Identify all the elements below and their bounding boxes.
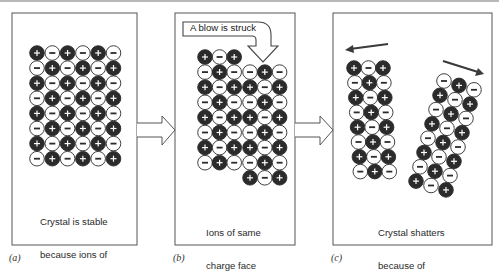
negative-ion — [272, 125, 287, 140]
negative-ion — [227, 95, 242, 110]
negative-ion — [467, 83, 482, 98]
positive-ion — [364, 105, 379, 120]
negative-ion — [60, 121, 75, 136]
negative-ion — [106, 76, 121, 91]
positive-ion — [243, 80, 258, 95]
negative-ion — [106, 46, 121, 61]
negative-ion — [60, 151, 75, 166]
negative-ion — [30, 91, 45, 106]
positive-ion — [272, 110, 287, 125]
positive-ion — [428, 164, 443, 179]
positive-ion — [362, 76, 377, 91]
positive-ion — [452, 78, 467, 93]
negative-ion — [212, 80, 227, 95]
positive-ion — [381, 150, 396, 165]
positive-ion — [227, 110, 242, 125]
positive-ion — [349, 90, 364, 105]
panel-label-b: (b) — [173, 252, 185, 263]
negative-ion — [45, 76, 60, 91]
negative-ion — [227, 155, 242, 170]
positive-ion — [227, 140, 242, 155]
negative-ion — [348, 76, 363, 91]
negative-ion — [424, 178, 439, 193]
positive-ion — [106, 91, 121, 106]
positive-ion — [366, 135, 381, 150]
negative-ion — [377, 76, 392, 91]
caption-b: Ions of same charge face each other — [206, 205, 261, 271]
positive-ion — [463, 97, 478, 112]
positive-ion — [272, 80, 287, 95]
positive-ion — [91, 46, 106, 61]
caption-line: Ions of same — [206, 227, 261, 238]
negative-ion — [258, 140, 273, 155]
positive-ion — [212, 65, 227, 80]
negative-ion — [198, 155, 213, 170]
positive-ion — [376, 61, 391, 76]
negative-ion — [272, 65, 287, 80]
positive-ion — [60, 136, 75, 151]
negative-ion — [361, 61, 376, 76]
caption-line: charge face — [206, 260, 261, 271]
panel-label-a: (a) — [9, 252, 21, 263]
transition-arrow-a-to-b — [137, 116, 175, 145]
transition-arrow-b-to-c — [295, 116, 333, 145]
caption-line: because ions of — [40, 249, 108, 260]
negative-ion — [91, 91, 106, 106]
positive-ion — [379, 120, 394, 135]
positive-ion — [368, 164, 383, 179]
negative-ion — [76, 76, 91, 91]
negative-ion — [91, 121, 106, 136]
negative-ion — [198, 65, 213, 80]
caption-line: because of — [378, 260, 445, 271]
negative-ion — [382, 164, 397, 179]
negative-ion — [365, 120, 380, 135]
positive-ion — [198, 140, 213, 155]
positive-ion — [425, 117, 440, 132]
positive-ion — [433, 88, 448, 103]
negative-ion — [429, 102, 444, 117]
negative-ion — [91, 61, 106, 76]
negative-ion — [45, 46, 60, 61]
negative-ion — [227, 65, 242, 80]
negative-ion — [421, 131, 436, 146]
negative-ion — [353, 164, 368, 179]
positive-ion — [45, 121, 60, 136]
positive-ion — [60, 106, 75, 121]
negative-ion — [459, 111, 474, 126]
negative-ion — [443, 168, 458, 183]
positive-ion — [347, 61, 362, 76]
positive-ion — [45, 61, 60, 76]
blow-label: A blow is struck — [190, 22, 256, 33]
negative-ion — [363, 90, 378, 105]
negative-ion — [60, 61, 75, 76]
negative-ion — [76, 106, 91, 121]
positive-ion — [258, 95, 273, 110]
positive-ion — [352, 150, 367, 165]
positive-ion — [30, 106, 45, 121]
positive-ion — [76, 121, 91, 136]
positive-ion — [212, 155, 227, 170]
negative-ion — [76, 136, 91, 151]
negative-ion — [243, 65, 258, 80]
negative-ion — [258, 171, 273, 186]
negative-ion — [349, 105, 364, 120]
positive-ion — [272, 171, 287, 186]
positive-ion — [60, 76, 75, 91]
negative-ion — [451, 140, 466, 155]
positive-ion — [409, 174, 424, 189]
positive-ion — [198, 50, 213, 65]
negative-ion — [258, 110, 273, 125]
positive-ion — [76, 61, 91, 76]
positive-ion — [106, 121, 121, 136]
caption-a: Crystal is stable because ions of opposi… — [40, 194, 108, 271]
negative-ion — [272, 155, 287, 170]
negative-ion — [76, 46, 91, 61]
negative-ion — [30, 121, 45, 136]
negative-ion — [30, 61, 45, 76]
negative-ion — [198, 95, 213, 110]
positive-ion — [91, 136, 106, 151]
negative-ion — [258, 80, 273, 95]
positive-ion — [45, 91, 60, 106]
positive-ion — [30, 46, 45, 61]
positive-ion — [227, 80, 242, 95]
